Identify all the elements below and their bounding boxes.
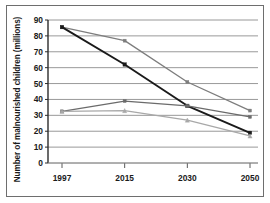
y-tick-label: 80 (34, 31, 44, 41)
y-tick-label: 60 (34, 63, 44, 73)
series-4 (60, 108, 252, 138)
chart-figure: Number of malnourished children (million… (0, 0, 270, 203)
y-axis-title: Number of malnourished children (million… (8, 8, 28, 190)
data-point-marker (249, 115, 252, 118)
data-point-marker (186, 80, 189, 83)
y-tick-label: 0 (38, 158, 43, 168)
x-tick-label: 2050 (241, 173, 260, 183)
y-tick-label: 10 (34, 142, 44, 152)
series-line (62, 111, 250, 136)
data-series-group (60, 25, 252, 138)
x-axis-ticks: 1997201520302050 (53, 163, 260, 183)
data-point-marker (123, 63, 126, 66)
y-tick-label: 70 (34, 47, 44, 57)
y-tick-label: 30 (34, 110, 44, 120)
series-line (62, 101, 250, 117)
x-tick-label: 2030 (178, 173, 197, 183)
data-point-marker (123, 100, 126, 103)
axis-lines (48, 20, 258, 163)
data-point-marker (123, 39, 126, 42)
plot-area: 0102030405060708090 1997201520302050 (26, 8, 262, 194)
data-point-marker (186, 104, 189, 107)
series-line (62, 27, 250, 133)
y-tick-label: 20 (34, 126, 44, 136)
y-axis-title-text: Number of malnourished children (million… (14, 16, 23, 181)
x-tick-label: 1997 (53, 173, 72, 183)
data-point-marker (249, 109, 252, 112)
line-chart-svg: 0102030405060708090 1997201520302050 (26, 8, 262, 194)
y-axis-ticks: 0102030405060708090 (34, 15, 48, 168)
y-tick-label: 40 (34, 94, 44, 104)
x-tick-label: 2015 (115, 173, 134, 183)
y-tick-label: 50 (34, 79, 44, 89)
gridlines (48, 20, 258, 163)
data-point-marker (60, 25, 63, 28)
y-tick-label: 90 (34, 15, 44, 25)
series-2 (60, 25, 251, 134)
series-line (62, 27, 250, 110)
